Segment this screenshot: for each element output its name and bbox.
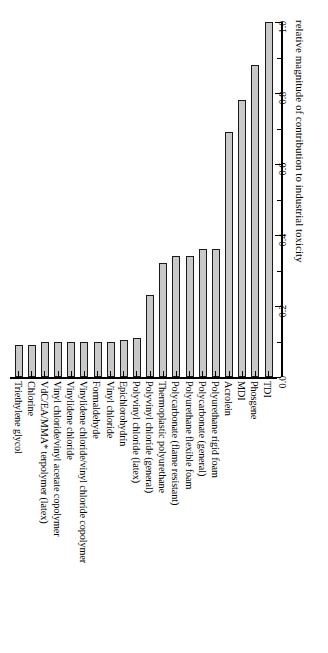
category-label: Thermoplastic polyurethane	[157, 381, 167, 493]
bar-slot	[209, 22, 222, 377]
category-tick	[223, 371, 236, 377]
bar[interactable]	[199, 249, 207, 377]
bar-slot	[196, 22, 209, 377]
category-axis-labels: Triethylene glycolChlorineVdC/EA/MMA* te…	[12, 381, 275, 649]
category-label: Polycarbonate (general)	[196, 381, 206, 476]
category-tick	[196, 371, 209, 377]
category-label: VdC/EA/MMA* terpolymer (latex)	[39, 381, 49, 523]
category-label: MDI	[236, 381, 246, 401]
value-tick-label: 0.2	[278, 305, 288, 318]
category-axis-ticks	[12, 371, 275, 377]
bar-slot	[170, 22, 183, 377]
value-minor-tick	[277, 58, 281, 59]
category-tick	[170, 371, 183, 377]
category-label: Acrolein	[223, 381, 233, 416]
bar-slot	[91, 22, 104, 377]
value-minor-tick	[277, 200, 281, 201]
toxicity-bar-chart: 0.00.20.40.60.81.0 relative magnitude of…	[0, 0, 328, 653]
category-tick	[236, 371, 249, 377]
value-axis-line	[281, 22, 283, 377]
category-label: Vinyl chloride	[104, 381, 114, 438]
category-tick	[104, 371, 117, 377]
bar-slot	[65, 22, 78, 377]
bar-slot	[157, 22, 170, 377]
category-label: Polyvinyl chloride (general)	[144, 381, 154, 493]
bar[interactable]	[251, 65, 259, 377]
value-minor-tick	[277, 129, 281, 130]
value-tick-label: 0.6	[278, 163, 288, 176]
bar-slot	[104, 22, 117, 377]
category-label: Polyurethane rigid foam	[210, 381, 220, 478]
bar[interactable]	[212, 249, 220, 377]
category-tick	[117, 371, 130, 377]
bar[interactable]	[172, 256, 180, 377]
bar-slot	[249, 22, 262, 377]
value-tick-label: 0.8	[278, 92, 288, 105]
category-tick	[51, 371, 64, 377]
category-label: Vinylidene chloride/vinyl chloride copol…	[78, 381, 88, 563]
value-tick-label: 0.4	[278, 234, 288, 247]
category-tick	[209, 371, 222, 377]
bar-slot	[144, 22, 157, 377]
category-tick	[12, 371, 25, 377]
category-label: Formaldehyde	[91, 381, 101, 439]
category-label: Chlorine	[26, 381, 36, 416]
category-tick	[262, 371, 275, 377]
bar-slot	[183, 22, 196, 377]
bar-slot	[78, 22, 91, 377]
value-axis-title: relative magnitude of contribution to in…	[294, 20, 305, 263]
category-label: TDI	[262, 381, 272, 398]
bar-slot	[262, 22, 275, 377]
bar-slot	[51, 22, 64, 377]
bar-slot	[130, 22, 143, 377]
category-label: Triethylene glycol	[12, 381, 22, 454]
category-tick	[91, 371, 104, 377]
bar-slot	[12, 22, 25, 377]
category-label: Vinyl chloride/vinyl acetate copolymer	[52, 381, 62, 536]
bar-slot	[25, 22, 38, 377]
bar-slot	[117, 22, 130, 377]
category-label: Polyurethane flexible foam	[183, 381, 193, 489]
bar[interactable]	[186, 256, 194, 377]
category-label: Phosgene	[249, 381, 259, 419]
category-tick	[65, 371, 78, 377]
bar[interactable]	[146, 295, 154, 377]
category-label: Vinylidene chloride	[65, 381, 75, 460]
category-tick	[144, 371, 157, 377]
bar[interactable]	[238, 100, 246, 377]
category-tick	[249, 371, 262, 377]
category-tick	[130, 371, 143, 377]
plot-area	[12, 22, 275, 377]
bar-slot	[38, 22, 51, 377]
category-tick	[157, 371, 170, 377]
bar[interactable]	[225, 132, 233, 377]
category-tick	[38, 371, 51, 377]
category-label: Polycarbonate (flame resistant)	[170, 381, 180, 505]
bar-slot	[236, 22, 249, 377]
bar[interactable]	[265, 22, 273, 377]
category-tick	[183, 371, 196, 377]
category-axis-line	[10, 377, 277, 379]
value-tick-label: 1.0	[278, 21, 288, 34]
value-minor-tick	[277, 342, 281, 343]
category-label: Epichlorohydrin	[118, 381, 128, 446]
value-minor-tick	[277, 271, 281, 272]
category-label: Polyvinyl chloride (latex)	[131, 381, 141, 483]
category-tick	[25, 371, 38, 377]
value-tick-label: 0.0	[278, 376, 288, 389]
bar[interactable]	[159, 263, 167, 377]
bar-slot	[223, 22, 236, 377]
category-tick	[78, 371, 91, 377]
